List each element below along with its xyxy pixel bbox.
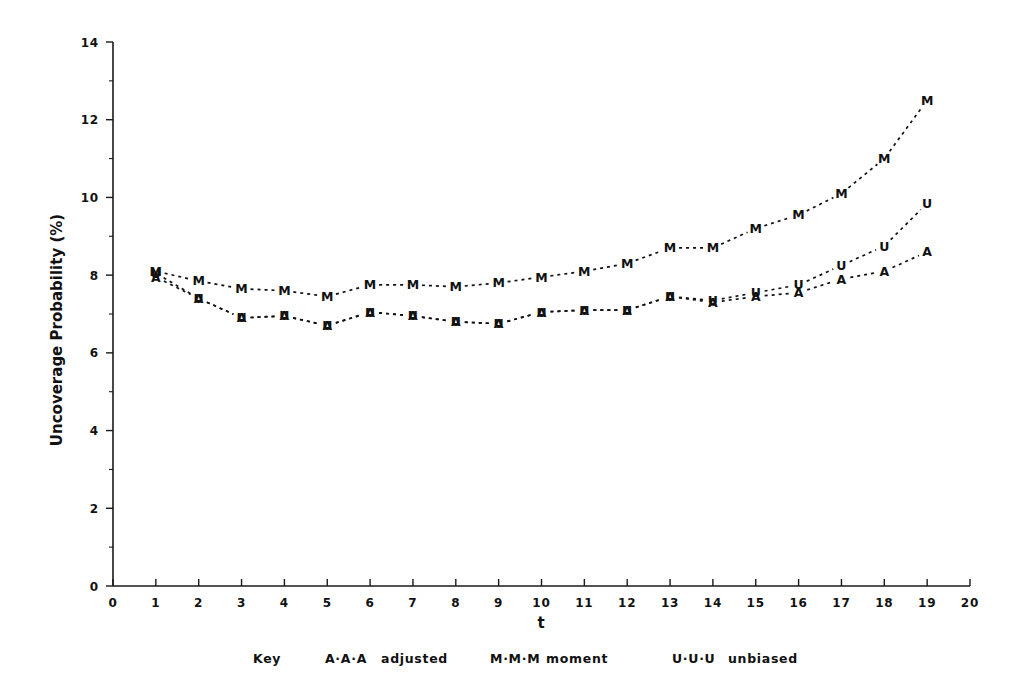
data-point-U-4: U: [279, 308, 289, 323]
legend-label-unbiased: unbiased: [728, 651, 798, 666]
x-tick-label: 10: [532, 596, 550, 610]
data-point-U-17: U: [836, 258, 846, 273]
x-tick-label: 8: [451, 596, 460, 610]
x-tick-label: 17: [832, 596, 850, 610]
legend-sample-moment: M·M·M: [490, 651, 540, 666]
data-point-M-7: M: [407, 277, 419, 292]
data-point-M-4: M: [278, 283, 290, 298]
y-tick-label: 6: [90, 346, 99, 360]
x-tick-label: 15: [747, 596, 765, 610]
x-tick-label: 11: [575, 596, 593, 610]
y-tick-label: 2: [90, 502, 99, 516]
y-axis-title: Uncoverage Probability (%): [48, 214, 66, 446]
data-point-U-6: U: [365, 305, 375, 320]
x-tick-label: 18: [875, 596, 893, 610]
data-point-M-16: M: [792, 207, 804, 222]
data-point-A-19: A: [922, 244, 932, 259]
y-tick-label: 10: [81, 191, 99, 205]
data-point-M-13: M: [664, 240, 676, 255]
x-tick-label: 12: [618, 596, 636, 610]
y-tick-label: 14: [81, 36, 99, 50]
x-tick-label: 3: [237, 596, 246, 610]
data-point-U-18: U: [879, 239, 889, 254]
legend-sample-unbiased: U·U·U: [672, 651, 715, 666]
data-point-M-14: M: [707, 240, 719, 255]
y-tick-label: 8: [90, 269, 99, 283]
x-tick-label: 20: [961, 596, 979, 610]
data-point-M-5: M: [321, 289, 333, 304]
data-point-M-6: M: [364, 277, 376, 292]
data-point-M-12: M: [621, 256, 633, 271]
data-point-M-8: M: [450, 279, 462, 294]
data-point-U-16: U: [794, 277, 804, 292]
x-tick-label: 6: [366, 596, 375, 610]
data-point-M-19: M: [921, 93, 933, 108]
y-tick-label: 4: [90, 424, 99, 438]
x-tick-label: 7: [408, 596, 417, 610]
data-point-U-7: U: [408, 308, 418, 323]
data-point-M-17: M: [835, 186, 847, 201]
data-point-M-15: M: [750, 221, 762, 236]
x-tick-label: 0: [108, 596, 117, 610]
data-point-U-12: U: [622, 303, 632, 318]
x-tick-label: 4: [280, 596, 289, 610]
legend-label-moment: moment: [546, 651, 608, 666]
data-point-U-8: U: [451, 314, 461, 329]
y-tick-label: 12: [81, 113, 99, 127]
x-tick-label: 5: [323, 596, 332, 610]
data-point-U-14: U: [708, 293, 718, 308]
legend-sample-adjusted: A·A·A: [325, 651, 367, 666]
data-point-M-2: M: [192, 273, 204, 288]
x-tick-label: 19: [918, 596, 936, 610]
data-point-M-10: M: [535, 270, 547, 285]
data-point-U-2: U: [194, 291, 204, 306]
uncoverage-probability-chart: 02468101214 0123456789101112131415161718…: [0, 0, 1011, 690]
data-point-M-11: M: [578, 264, 590, 279]
data-point-U-13: U: [665, 289, 675, 304]
x-tick-label: 14: [704, 596, 722, 610]
x-tick-label: 13: [661, 596, 679, 610]
x-tick-label: 2: [194, 596, 203, 610]
data-point-A-18: A: [879, 264, 889, 279]
y-tick-label: 0: [90, 580, 99, 594]
legend-label-adjusted: adjusted: [381, 651, 448, 666]
data-point-U-19: U: [922, 196, 932, 211]
data-point-U-9: U: [494, 316, 504, 331]
x-tick-label: 16: [789, 596, 807, 610]
data-point-M-3: M: [235, 281, 247, 296]
legend-key-label: Key: [253, 651, 281, 666]
data-point-U-10: U: [536, 305, 546, 320]
data-point-U-3: U: [236, 310, 246, 325]
data-point-A-17: A: [837, 272, 847, 287]
data-point-M-9: M: [492, 275, 504, 290]
data-point-U-11: U: [579, 303, 589, 318]
data-point-M-18: M: [878, 151, 890, 166]
x-tick-label: 9: [494, 596, 503, 610]
data-point-U-1: U: [151, 266, 161, 281]
x-tick-label: 1: [151, 596, 160, 610]
x-axis-title: t: [537, 614, 544, 632]
data-point-U-15: U: [751, 285, 761, 300]
data-point-U-5: U: [322, 318, 332, 333]
